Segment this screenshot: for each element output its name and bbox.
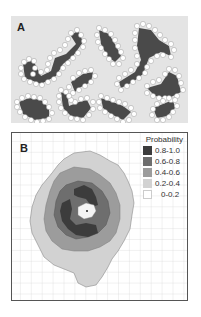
panel-a-cluster-map: A — [11, 16, 188, 123]
legend-item: 0.8-1.0 — [143, 145, 183, 156]
legend-label: 0.6-0.8 — [155, 157, 183, 166]
legend-swatch-icon — [143, 179, 152, 188]
legend-label: 0.8-1.0 — [155, 146, 183, 155]
legend-swatch-icon — [143, 168, 152, 177]
legend-label: 0.2-0.4 — [155, 179, 183, 188]
cluster-lattice — [11, 16, 188, 123]
panel-b-probability-map: B Probability 0.8-1.0 0.6-0.8 0.4-0.6 0.… — [11, 132, 188, 301]
probability-legend: Probability 0.8-1.0 0.6-0.8 0.4-0.6 0.2-… — [143, 135, 183, 200]
legend-item: 0.4-0.6 — [143, 167, 183, 178]
legend-title: Probability — [143, 135, 183, 144]
panel-b-label: B — [20, 142, 28, 154]
legend-label: 0.4-0.6 — [155, 168, 183, 177]
legend-swatch-icon — [143, 157, 152, 166]
legend-swatch-icon — [143, 190, 152, 199]
legend-label: 0-0.2 — [155, 190, 183, 199]
legend-item: 0-0.2 — [143, 189, 183, 200]
legend-item: 0.2-0.4 — [143, 178, 183, 189]
legend-swatch-icon — [143, 146, 152, 155]
legend-item: 0.6-0.8 — [143, 156, 183, 167]
